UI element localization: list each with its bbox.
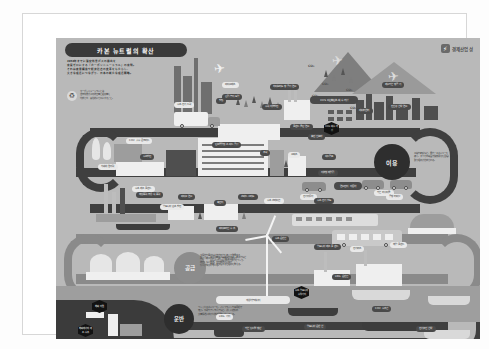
section-blurb-use: 工場や家庭など、電力・エネルギーを 使う、すべての場面で脱炭素化を目指した 取り… <box>414 152 464 162</box>
label-ammonia-ship[interactable]: 암모니아 운반선 <box>304 324 326 330</box>
label-renewable-energy[interactable]: 재생가능에너지 <box>216 296 290 304</box>
label-hydro[interactable]: 수력·지열발전 <box>262 104 282 110</box>
skyline-building <box>201 82 212 114</box>
warehouse <box>204 204 238 220</box>
label-heat-pump[interactable]: 히트펌프 <box>322 154 336 160</box>
label-zero-air[interactable]: 제로카본 항공기 <box>382 82 404 88</box>
recycle-icon: ♻ <box>67 91 77 101</box>
label-ship-fuel[interactable]: 친환경 선박 연료 <box>388 104 411 110</box>
truck-body <box>174 112 208 126</box>
crane-structure <box>166 150 196 176</box>
wheel-icon <box>210 124 214 128</box>
label-train[interactable]: 수소·전기 철도 <box>314 198 334 204</box>
label-storage[interactable]: 축전지 <box>214 200 226 206</box>
label-offshore-wind[interactable]: 해상풍력·부유식 풍력 <box>136 192 163 198</box>
airport-terminal <box>410 214 454 228</box>
label-biomass[interactable]: 바이오매스 <box>222 82 239 88</box>
plant-building <box>116 162 164 176</box>
screenshot-root: ✈ ✈ ✈ CO₂ CO₂ CO₂ CO₂ CO₂ CO₂ <box>0 0 489 349</box>
wheel-icon <box>180 124 184 128</box>
label-solar-roof[interactable]: 지붕형 태양광 <box>318 170 338 176</box>
tree-icon <box>268 97 272 104</box>
tree-icon <box>198 212 202 219</box>
wind-turbine-pole <box>266 234 268 296</box>
label-ammonia-plant[interactable]: 암모니아 제조 플랜트 <box>314 244 341 250</box>
label-nuclear[interactable]: 차세대 원자력 <box>98 164 118 170</box>
flash-icon: ⚡ <box>441 44 450 53</box>
tree-icon <box>332 74 336 81</box>
tree-icon <box>341 68 345 75</box>
label-zev-truck[interactable]: 수소·전기 트럭 <box>174 102 194 108</box>
label-co2-concrete[interactable]: CO2 흡수 콘크리트 <box>126 138 152 144</box>
section-circle-transport[interactable]: 운반 <box>164 304 194 334</box>
section-label: 운반 <box>174 315 184 323</box>
label-data[interactable]: 데이터센터 <box>356 108 373 114</box>
ship-icon <box>352 290 410 300</box>
smokestack <box>104 184 108 218</box>
label-ammonia-mix[interactable]: 암모니아 혼소발전 <box>160 204 184 210</box>
label-lng-ship[interactable]: LNG 운반선 <box>332 274 351 280</box>
hydrogen-dome <box>116 252 140 272</box>
tree-icon <box>284 160 288 167</box>
tree-icon <box>349 76 353 83</box>
airplane-icon: ✈ <box>213 61 226 75</box>
smokestack <box>324 252 327 272</box>
wheel-icon <box>364 186 368 190</box>
hydrogen-dome <box>144 256 164 272</box>
factory-building <box>284 100 310 120</box>
co2-mark: CO₂ <box>322 82 328 86</box>
wheel-icon <box>305 188 309 192</box>
recycle-note-text: カーボンニュートラルとは 温室効果ガスの排出量と吸収量を 均衡させ、実質的にゼロ… <box>80 90 180 100</box>
label-airport[interactable]: 공항 터미널 <box>386 194 403 200</box>
label-hydrogen-station[interactable]: 수소 스테이션 <box>264 198 284 204</box>
wheel-icon <box>342 243 346 247</box>
label-hydrogen-gen[interactable]: 수소발전 <box>140 154 154 160</box>
poster-title: 카본 뉴트럴의 확산 <box>97 46 155 55</box>
label-fuelcell-car[interactable]: 연료전지 자동차 <box>334 182 362 190</box>
label-hydrogen-ship[interactable]: 수소 운반선 <box>272 236 289 242</box>
label-home[interactable]: 주택 <box>260 150 270 156</box>
infographic-poster: ✈ ✈ ✈ CO₂ CO₂ CO₂ CO₂ CO₂ CO₂ <box>56 38 480 339</box>
wheel-icon <box>404 186 408 190</box>
skyline-building <box>412 98 420 120</box>
label-bus[interactable]: 전기버스 <box>350 246 364 252</box>
label-hybrid-air[interactable]: 하이브리드 항공기 연료 <box>270 84 299 90</box>
smokestack <box>364 250 367 266</box>
storage-tank <box>103 142 111 160</box>
label-plant-clean[interactable]: 플랜트 클린 연료 <box>290 124 313 130</box>
wheel-icon <box>318 188 322 192</box>
office-roof <box>218 124 280 140</box>
wheel-icon <box>384 243 388 247</box>
label-smart-grid[interactable]: 스마트 그리드 <box>238 194 258 200</box>
label-zero-factory[interactable]: 탄소중립형 스마트 공장 <box>212 142 241 148</box>
ministry-logo: ⚡ 경제산업성 <box>441 44 474 53</box>
poster-title-bar: 카본 뉴트럴의 확산 <box>65 43 187 57</box>
road-bend <box>402 128 458 204</box>
section-circle-use[interactable]: 이용 <box>374 144 410 180</box>
tree-icon <box>252 96 256 103</box>
co2-mark: CO₂ <box>308 64 314 68</box>
label-hydrogen-plant[interactable]: 수소 제조 플랜트 <box>132 186 155 192</box>
label-co2-ship[interactable]: CO2 수송선 <box>372 306 391 312</box>
hydrogen-dome <box>90 254 112 272</box>
label-office[interactable]: 오피스 <box>288 152 300 158</box>
label-ccs[interactable]: CCS 이산화탄소 회수·저장 <box>310 96 358 104</box>
tree-icon <box>324 70 328 77</box>
label-tanker[interactable]: 전기추진 선박 <box>416 326 436 332</box>
label-offshore-plant[interactable]: 해양 플랜트 <box>390 242 407 248</box>
ministry-name: 경제산업성 <box>452 46 474 52</box>
label-biofuel[interactable]: 바이오 연료 <box>178 194 195 200</box>
label-port[interactable]: 카본 뉴트럴 항만 <box>242 326 265 332</box>
smokestack <box>294 90 297 102</box>
ship-icon <box>214 330 244 337</box>
label-ev-charge[interactable]: 충전 인프라 <box>308 134 325 140</box>
label-forest[interactable]: 산림·농지·토양 <box>222 94 242 100</box>
ship-icon <box>428 296 470 305</box>
storage-tank <box>92 138 100 160</box>
overseas-origin-label: 해외로부터 <box>154 338 179 339</box>
skyline-building <box>424 106 438 120</box>
wheel-icon <box>392 186 396 190</box>
label-pipeline[interactable]: 파이프라인 수송 <box>216 226 238 232</box>
label-lng-base[interactable]: LNG 기지 <box>216 314 233 320</box>
skyline-building <box>366 94 372 120</box>
